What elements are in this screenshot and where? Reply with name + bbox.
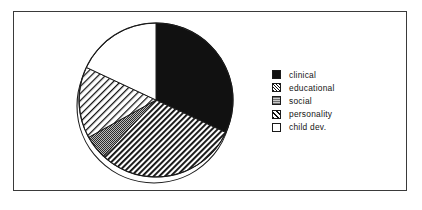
legend-swatch-clinical <box>272 70 281 79</box>
legend-swatch-educational <box>272 83 281 92</box>
legend-label-social: social <box>289 96 312 106</box>
legend-label-educational: educational <box>289 83 335 93</box>
pie-wrap <box>66 8 250 192</box>
legend-item-clinical[interactable]: clinical <box>272 68 392 81</box>
pie-chart-svg <box>66 8 250 192</box>
legend-label-clinical: clinical <box>289 70 316 80</box>
pie-chart-figure: clinical educational social personality … <box>0 0 422 210</box>
legend-swatch-child-dev <box>272 123 281 132</box>
legend-item-social[interactable]: social <box>272 94 392 107</box>
legend-item-personality[interactable]: personality <box>272 108 392 121</box>
legend-label-personality: personality <box>289 109 332 119</box>
legend-label-child-dev: child dev. <box>289 122 326 132</box>
legend-swatch-personality <box>272 110 281 119</box>
legend-item-child-dev[interactable]: child dev. <box>272 121 392 134</box>
legend-item-educational[interactable]: educational <box>272 81 392 94</box>
legend-swatch-social <box>272 96 281 105</box>
legend: clinical educational social personality … <box>272 68 392 134</box>
pie-slices <box>79 23 233 177</box>
